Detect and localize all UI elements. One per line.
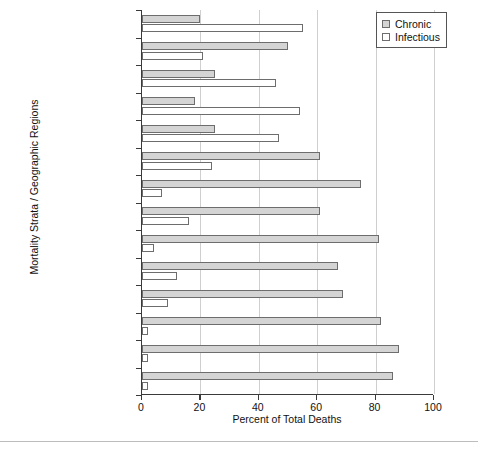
bar-group bbox=[142, 65, 433, 93]
bar-group bbox=[142, 313, 433, 341]
x-tick bbox=[199, 395, 200, 400]
bar-group bbox=[142, 230, 433, 258]
bar-infectious bbox=[142, 299, 168, 307]
plot-area bbox=[141, 10, 433, 395]
x-axis-tick-label: 60 bbox=[296, 401, 336, 413]
bar-infectious bbox=[142, 24, 303, 32]
chart-root: Mortality Strata / Geographic Regions 02… bbox=[0, 0, 478, 456]
y-tick bbox=[136, 10, 141, 11]
bar-chronic bbox=[142, 180, 361, 188]
y-tick bbox=[136, 285, 141, 286]
bar-group bbox=[142, 148, 433, 176]
bar-chronic bbox=[142, 152, 320, 160]
bar-chronic bbox=[142, 345, 399, 353]
y-axis-title: Mortality Strata / Geographic Regions bbox=[28, 67, 40, 307]
y-tick bbox=[136, 120, 141, 121]
bar-rows bbox=[142, 10, 433, 394]
legend-swatch-chronic-icon bbox=[382, 20, 390, 28]
x-axis-tick-label: 20 bbox=[179, 401, 219, 413]
y-tick bbox=[136, 258, 141, 259]
y-tick bbox=[136, 148, 141, 149]
x-tick bbox=[316, 395, 317, 400]
y-tick bbox=[136, 340, 141, 341]
y-tick bbox=[136, 203, 141, 204]
y-tick bbox=[136, 65, 141, 66]
y-tick bbox=[136, 175, 141, 176]
y-tick bbox=[136, 230, 141, 231]
bar-chronic bbox=[142, 70, 215, 78]
bar-infectious bbox=[142, 107, 300, 115]
bar-group bbox=[142, 120, 433, 148]
bar-chronic bbox=[142, 207, 320, 215]
x-tick bbox=[258, 395, 259, 400]
bar-group bbox=[142, 175, 433, 203]
gridline bbox=[434, 10, 435, 394]
bar-chronic bbox=[142, 97, 195, 105]
x-tick bbox=[141, 395, 142, 400]
bar-group bbox=[142, 285, 433, 313]
bar-infectious bbox=[142, 272, 177, 280]
legend: Chronic Infectious bbox=[376, 12, 447, 48]
x-tick bbox=[433, 395, 434, 400]
legend-swatch-infectious-icon bbox=[382, 33, 390, 41]
bar-chronic bbox=[142, 235, 379, 243]
bar-infectious bbox=[142, 217, 189, 225]
x-axis-title: Percent of Total Deaths bbox=[141, 413, 433, 425]
legend-item-infectious: Infectious bbox=[382, 30, 440, 43]
legend-item-chronic: Chronic bbox=[382, 17, 440, 30]
x-axis-tick-label: 40 bbox=[238, 401, 278, 413]
bar-chronic bbox=[142, 262, 338, 270]
bar-infectious bbox=[142, 327, 148, 335]
x-axis-tick-label: 0 bbox=[121, 401, 161, 413]
bar-group bbox=[142, 258, 433, 286]
bar-group bbox=[142, 93, 433, 121]
bar-chronic bbox=[142, 372, 393, 380]
bar-infectious bbox=[142, 189, 162, 197]
legend-label-infectious: Infectious bbox=[395, 31, 440, 43]
bar-chronic bbox=[142, 290, 343, 298]
bar-infectious bbox=[142, 382, 148, 390]
bar-chronic bbox=[142, 317, 381, 325]
y-tick bbox=[136, 313, 141, 314]
bar-infectious bbox=[142, 354, 148, 362]
bar-infectious bbox=[142, 79, 276, 87]
bar-group bbox=[142, 203, 433, 231]
bar-group bbox=[142, 340, 433, 368]
bar-chronic bbox=[142, 15, 200, 23]
bar-infectious bbox=[142, 162, 212, 170]
bar-chronic bbox=[142, 125, 215, 133]
y-tick bbox=[136, 38, 141, 39]
x-tick bbox=[375, 395, 376, 400]
y-tick bbox=[136, 93, 141, 94]
bar-infectious bbox=[142, 134, 279, 142]
x-axis-tick-label: 80 bbox=[355, 401, 395, 413]
bar-infectious bbox=[142, 52, 203, 60]
bottom-divider bbox=[0, 441, 478, 442]
y-tick bbox=[136, 368, 141, 369]
bar-group bbox=[142, 368, 433, 396]
bar-infectious bbox=[142, 244, 154, 252]
legend-label-chronic: Chronic bbox=[395, 18, 431, 30]
bar-chronic bbox=[142, 42, 288, 50]
y-tick bbox=[136, 395, 141, 396]
x-axis-tick-label: 100 bbox=[413, 401, 453, 413]
